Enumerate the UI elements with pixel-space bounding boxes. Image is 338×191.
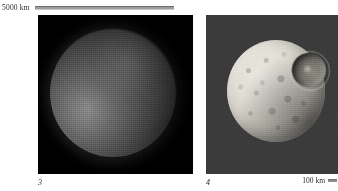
figure-plate: 5000 km 3 4 100 km	[0, 0, 338, 191]
image-panel-left	[38, 15, 193, 174]
image-panel-right	[206, 15, 338, 174]
panel-caption-left: 3	[38, 179, 42, 187]
top-scalebar-rule-icon	[35, 6, 174, 10]
bottom-scalebar-rule-icon	[328, 179, 337, 182]
top-scalebar-label: 5000 km	[2, 4, 30, 12]
panel-caption-right: 4	[206, 179, 210, 187]
bottom-scalebar-label: 100 km	[302, 177, 325, 185]
dim-moon-limb-highlight	[50, 29, 176, 157]
large-impact-crater-central-peak	[303, 65, 313, 75]
top-scalebar: 5000 km	[2, 1, 174, 15]
bottom-scalebar: 100 km	[302, 177, 337, 185]
